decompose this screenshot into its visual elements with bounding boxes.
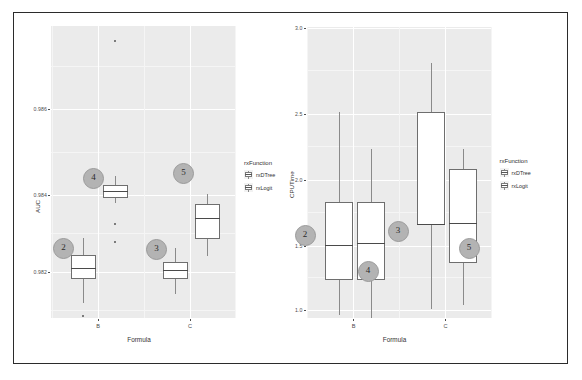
y-tick-mark-cputime-3 [304, 114, 306, 115]
x-tick-label-cputime-b: B [339, 323, 369, 329]
whisker-cpu-c-dtree-bottom [431, 225, 432, 309]
x-tick-label-auc-b: B [83, 323, 113, 329]
x-axis-title-auc: Formula [109, 336, 169, 343]
legend-item-rxlogit-auc[interactable]: rxLogit [244, 183, 275, 192]
whisker-auc-c-dtree-top [175, 248, 176, 262]
legend-title-auc: rxFunction [244, 160, 275, 166]
y-tick-label-cputime-3: 2.5 [281, 111, 303, 117]
median-cpu-c-logit [449, 223, 477, 224]
plot-panel-cputime [307, 27, 492, 318]
whisker-auc-c-logit-bottom [207, 239, 208, 256]
median-auc-b-logit [103, 191, 128, 192]
whisker-auc-b-dtree-bottom [83, 279, 84, 303]
outlier-auc-b-logit-0 [114, 40, 116, 42]
badge-5[interactable]: 5 [173, 163, 194, 184]
x-tick-label-auc-c: C [175, 323, 205, 329]
figure-frame: AUC 0.982 0.984 0.986 [13, 12, 568, 364]
y-tick-label-cputime-4: 3.0 [281, 25, 303, 31]
gridline-v-minor-2 [235, 26, 236, 318]
legend-title-cputime: rxFunction [500, 158, 531, 164]
median-auc-c-logit [195, 218, 220, 219]
y-tick-label-cputime-2: 2.0 [281, 177, 303, 183]
legend-label-rxlogit: rxLogit [256, 185, 272, 191]
gridline-v-minor-cpu-1 [399, 27, 400, 318]
y-tick-mark-cputime-2 [304, 180, 306, 181]
whisker-cpu-c-dtree-top [431, 63, 432, 112]
legend-key-boxplot-icon [500, 168, 509, 177]
box-auc-b-dtree [71, 255, 96, 279]
median-cpu-b-dtree [325, 245, 353, 246]
x-tick-label-cputime-c: C [431, 323, 461, 329]
badge-2[interactable]: 2 [295, 225, 316, 246]
whisker-auc-b-dtree-top [83, 238, 84, 255]
whisker-cpu-c-logit-bottom [463, 263, 464, 305]
gridline-v-minor-0 [52, 26, 53, 318]
median-cpu-b-logit [357, 243, 385, 244]
legend-cputime: rxFunction rxDTree rxLogit [500, 158, 531, 194]
y-tick-label-auc-0: 0.982 [22, 269, 47, 275]
outlier-auc-b-dtree-0 [82, 315, 84, 317]
whisker-auc-c-dtree-bottom [175, 279, 176, 294]
y-tick-mark-auc-0 [48, 272, 50, 273]
badge-3[interactable]: 3 [388, 221, 409, 242]
outlier-auc-b-logit-2 [114, 241, 116, 243]
legend-item-rxdtree-auc[interactable]: rxDTree [244, 170, 275, 179]
whisker-auc-b-logit-bottom [115, 198, 116, 203]
badge-2[interactable]: 2 [53, 238, 74, 259]
y-axis-title-cputime: CPUTime [288, 171, 295, 198]
chart-auc: AUC 0.982 0.984 0.986 [14, 13, 291, 363]
figure-canvas: AUC 0.982 0.984 0.986 [14, 13, 567, 363]
legend-item-rxlogit-cputime[interactable]: rxLogit [500, 181, 531, 190]
legend-label-rxlogit: rxLogit [512, 183, 528, 189]
box-cpu-b-dtree [325, 202, 353, 280]
plot-panel-auc [51, 26, 236, 318]
gridline-v-major-cpu-b [353, 27, 354, 318]
median-auc-c-dtree [163, 270, 188, 271]
chart-cputime: CPUTime 1.0 1.5 2.0 2.5 3.0 [291, 13, 568, 363]
y-tick-label-auc-1: 0.984 [22, 192, 47, 198]
y-tick-label-auc-2: 0.986 [22, 106, 47, 112]
legend-key-boxplot-icon [244, 170, 253, 179]
x-tick-mark-cputime-c [445, 319, 446, 321]
x-tick-mark-auc-b [98, 319, 99, 321]
legend-auc: rxFunction rxDTree rxLogit [244, 160, 275, 196]
box-auc-c-logit [195, 204, 220, 239]
x-tick-mark-auc-c [190, 319, 191, 321]
legend-label-rxdtree: rxDTree [512, 170, 531, 176]
y-tick-mark-cputime-4 [304, 28, 306, 29]
x-axis-title-cputime: Formula [365, 336, 425, 343]
whisker-cpu-b-logit-bottom [371, 280, 372, 318]
badge-5[interactable]: 5 [459, 238, 480, 259]
median-auc-b-dtree [71, 268, 96, 269]
gridline-v-minor-cpu-2 [491, 27, 492, 318]
gridline-v-minor-cpu-0 [307, 27, 308, 318]
y-tick-mark-auc-1 [48, 195, 50, 196]
whisker-cpu-b-logit-top [371, 149, 372, 202]
whisker-auc-c-logit-top [207, 194, 208, 204]
outlier-auc-b-logit-1 [114, 223, 116, 225]
gridline-v-major-cpu-c [445, 27, 446, 318]
legend-key-boxplot-icon [244, 183, 253, 192]
y-axis-title-auc: AUC [34, 200, 41, 213]
gridline-v-minor-1 [144, 26, 145, 318]
whisker-auc-b-logit-top [115, 176, 116, 185]
legend-label-rxdtree: rxDTree [256, 172, 275, 178]
whisker-cpu-c-logit-top [463, 149, 464, 169]
badge-3[interactable]: 3 [146, 239, 167, 260]
whisker-cpu-b-dtree-bottom [339, 280, 340, 315]
y-tick-mark-auc-2 [48, 109, 50, 110]
box-cpu-c-dtree [417, 112, 445, 225]
badge-4[interactable]: 4 [83, 168, 104, 189]
legend-item-rxdtree-cputime[interactable]: rxDTree [500, 168, 531, 177]
y-tick-mark-cputime-0 [304, 310, 306, 311]
x-tick-mark-cputime-b [353, 319, 354, 321]
badge-4[interactable]: 4 [358, 261, 379, 282]
legend-key-boxplot-icon [500, 181, 509, 190]
y-tick-label-cputime-0: 1.0 [281, 307, 303, 313]
